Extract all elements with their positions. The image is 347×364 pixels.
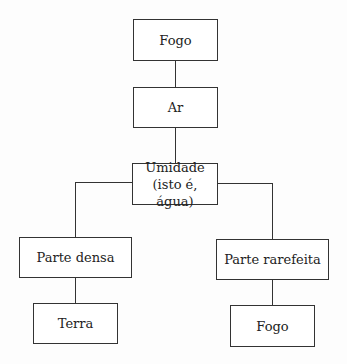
edge-umidade-parte-rarefeita-v [272,183,273,239]
node-label: Parte densa [37,249,115,266]
node-ar: Ar [133,87,218,128]
edge-umidade-parte-densa-v [75,182,76,237]
node-label: Parte rarefeita [224,251,321,268]
edge-umidade-parte-densa-h [75,182,133,183]
node-label: Ar [168,99,184,116]
edge-parte-rarefeita-fogo [272,279,273,305]
edge-parte-densa-terra [75,277,76,303]
node-umidade: Umidade (isto é, água) [132,163,218,205]
node-label: Fogo [256,318,288,335]
node-label: Terra [58,315,94,332]
node-label-line1: Umidade [145,159,205,176]
node-fogo-top: Fogo [133,19,218,61]
node-terra: Terra [33,303,118,344]
node-parte-rarefeita: Parte rarefeita [216,239,329,280]
node-fogo-bottom: Fogo [230,305,315,347]
node-label-line2: (isto é, água) [133,176,217,210]
edge-fogo-ar [175,60,176,87]
node-label: Fogo [159,32,191,49]
edge-umidade-parte-rarefeita-h [217,183,273,184]
node-parte-densa: Parte densa [19,237,132,278]
